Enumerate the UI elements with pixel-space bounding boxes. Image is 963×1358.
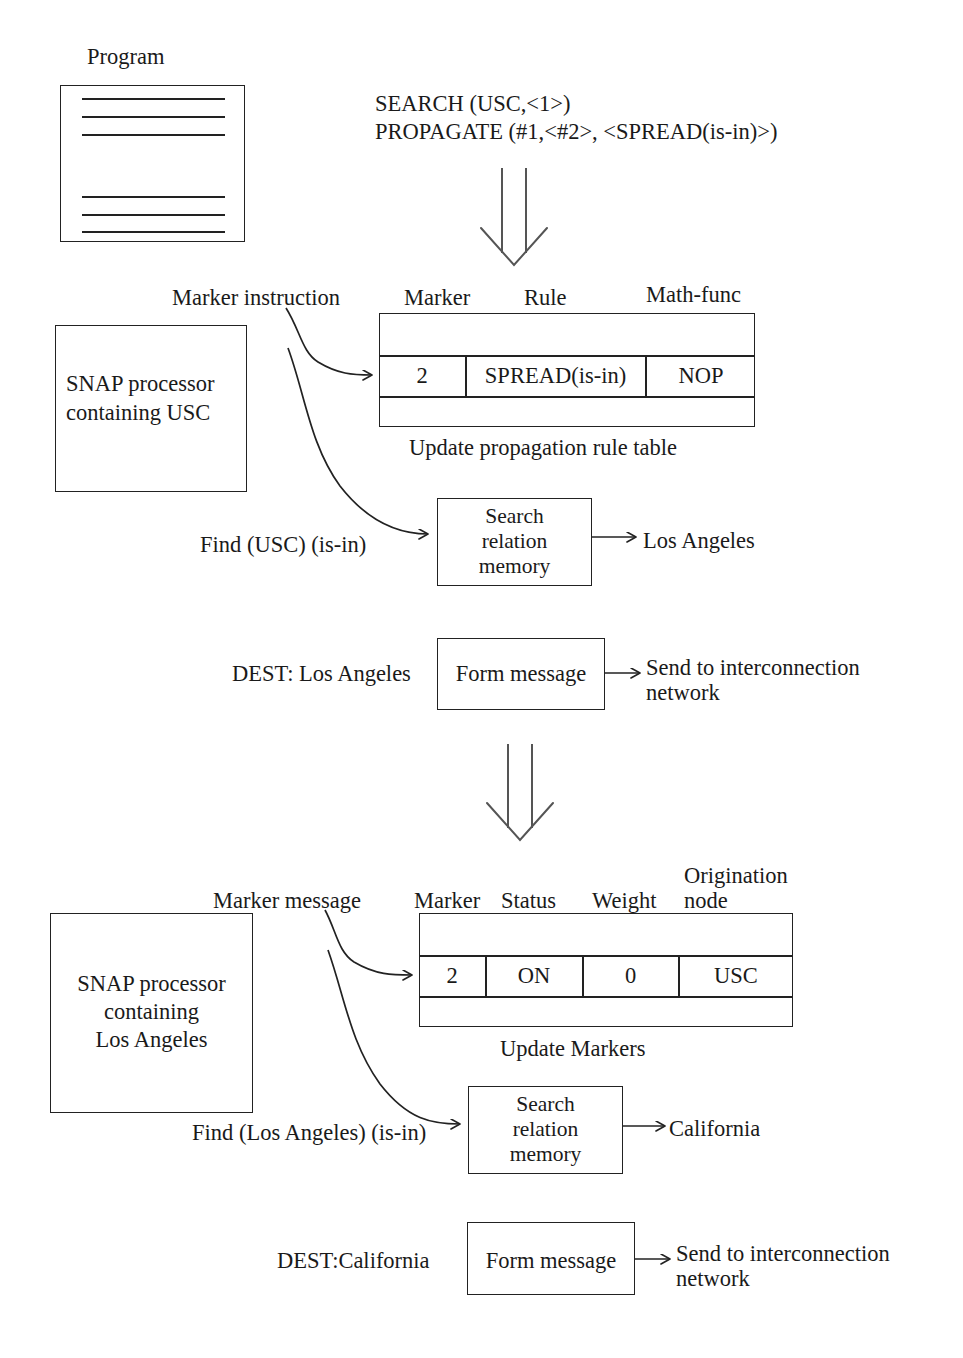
diagram-canvas: Program SEARCH (USC,<1>) PROPAGATE (#1,<… [0, 0, 963, 1358]
program-code-line [82, 116, 225, 118]
marker-table-cell-origination-node: USC [679, 963, 793, 990]
marker-table-cell-marker: 2 [419, 963, 485, 990]
curve-marker-message-to-table [325, 910, 412, 975]
curve-marker-instruction-to-table [286, 308, 372, 375]
send-network-2-line2: network [676, 1266, 750, 1293]
program-code-line [82, 134, 225, 136]
dest-label-2: DEST:California [277, 1248, 430, 1275]
marker-message-label: Marker message [213, 888, 361, 915]
snap-processor-2-line2: containing [50, 999, 253, 1026]
rule-table-cell-marker: 2 [379, 363, 465, 390]
search-box-2-line2: relation [468, 1117, 623, 1142]
program-code-line [82, 214, 225, 216]
rule-table-header-rule: Rule [524, 285, 567, 312]
search-box-2-line3: memory [468, 1142, 623, 1167]
search-box-1-line1: Search [437, 504, 592, 529]
marker-table-cell-weight: 0 [583, 963, 678, 990]
instruction-propagate: PROPAGATE (#1,<#2>, <SPREAD(is-in)>) [375, 119, 777, 146]
marker-table-caption: Update Markers [500, 1036, 646, 1063]
marker-table-cell-status: ON [486, 963, 582, 990]
marker-table-header-node: node [684, 888, 728, 915]
send-network-2-line1: Send to interconnection [676, 1241, 890, 1268]
snap-processor-1-line1: SNAP processor [66, 371, 215, 398]
marker-table-header-marker: Marker [414, 888, 480, 915]
rule-table-row-divider [379, 396, 755, 398]
send-network-1-line1: Send to interconnection [646, 655, 860, 682]
rule-table-header-marker: Marker [404, 285, 470, 312]
rule-table-cell-rule: SPREAD(is-in) [466, 363, 645, 390]
instruction-search: SEARCH (USC,<1>) [375, 91, 570, 118]
marker-table-header-status: Status [501, 888, 556, 915]
search-box-2-line1: Search [468, 1092, 623, 1117]
snap-processor-1-line2: containing USC [66, 400, 210, 427]
program-label: Program [87, 44, 165, 71]
marker-table-header-origination: Origination [684, 863, 788, 890]
search-box-1-line2: relation [437, 529, 592, 554]
marker-table-row-divider [419, 996, 793, 998]
program-code-line [82, 98, 225, 100]
marker-table-row-divider [419, 955, 793, 957]
send-network-1-line2: network [646, 680, 720, 707]
rule-table-row-divider [379, 355, 755, 357]
rule-table-caption: Update propagation rule table [409, 435, 677, 462]
rule-table-header-mathfunc: Math-func [646, 282, 741, 309]
form-message-label-1: Form message [437, 661, 605, 688]
block-arrow-down-2 [487, 744, 553, 840]
rule-table-cell-mathfunc: NOP [647, 363, 755, 390]
marker-table-header-weight: Weight [592, 888, 656, 915]
marker-instruction-label: Marker instruction [172, 285, 340, 312]
program-box [60, 85, 245, 242]
program-code-line [82, 196, 225, 198]
snap-processor-2-line3: Los Angeles [50, 1027, 253, 1054]
block-arrow-down-1 [481, 168, 547, 265]
dest-label-1: DEST: Los Angeles [232, 661, 411, 688]
find-label-2: Find (Los Angeles) (is-in) [192, 1120, 426, 1147]
search-result-1: Los Angeles [643, 528, 755, 555]
search-box-1-line3: memory [437, 554, 592, 579]
find-label-1: Find (USC) (is-in) [200, 532, 366, 559]
program-code-line [82, 231, 225, 233]
snap-processor-2-line1: SNAP processor [50, 971, 253, 998]
search-result-2: California [669, 1116, 760, 1143]
form-message-label-2: Form message [467, 1248, 635, 1275]
